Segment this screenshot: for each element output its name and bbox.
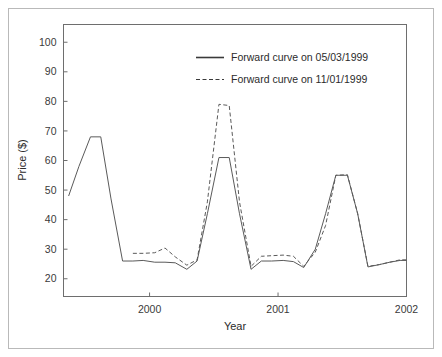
series-line-forward-curve-11-01-1999 — [133, 104, 407, 266]
y-tick-label-70: 70 — [45, 125, 57, 137]
y-tick-label-60: 60 — [45, 154, 57, 166]
x-axis-title: Year — [224, 320, 247, 332]
y-tick-label-100: 100 — [39, 36, 57, 48]
line-chart: 2030405060708090100 200020012002 Year Pr… — [0, 0, 442, 357]
x-tick-label-2002: 2002 — [395, 303, 419, 315]
y-axis-ticks — [64, 42, 68, 279]
x-axis-tick-labels: 200020012002 — [138, 303, 418, 315]
x-tick-label-2000: 2000 — [138, 303, 162, 315]
chart-legend: Forward curve on 05/03/1999 Forward curv… — [196, 51, 368, 85]
y-tick-label-90: 90 — [45, 65, 57, 77]
figure-container: 2030405060708090100 200020012002 Year Pr… — [0, 0, 442, 357]
y-tick-label-20: 20 — [45, 272, 57, 284]
series-line-forward-curve-05-03-1999 — [69, 137, 407, 269]
legend-label-1: Forward curve on 11/01/1999 — [231, 73, 368, 85]
x-axis-ticks — [150, 293, 407, 297]
legend-label-0: Forward curve on 05/03/1999 — [231, 51, 368, 63]
y-tick-label-30: 30 — [45, 243, 57, 255]
y-tick-label-50: 50 — [45, 184, 57, 196]
plot-area-wrapper: 2030405060708090100 200020012002 Year Pr… — [0, 0, 442, 357]
y-axis-title: Price ($) — [16, 139, 28, 181]
y-axis-tick-labels: 2030405060708090100 — [39, 36, 57, 285]
y-tick-label-40: 40 — [45, 213, 57, 225]
x-tick-label-2001: 2001 — [266, 303, 290, 315]
y-tick-label-80: 80 — [45, 95, 57, 107]
